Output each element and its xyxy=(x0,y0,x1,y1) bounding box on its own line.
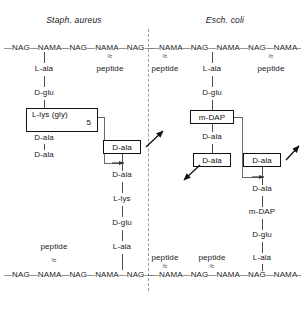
staph-top-bond-lala xyxy=(44,52,45,63)
staph-top-label-lala: L-ala xyxy=(35,64,53,73)
staph-bond-lala-backbone xyxy=(122,254,123,270)
ecoli-top-squiggle-1: ≈ xyxy=(163,52,168,60)
ecoli-bottom-backbone: —NAMA—NAG—NAMA—NAG—NAMA— xyxy=(151,270,301,279)
staph-bottom-backbone: —NAG—NAMA—NAG—NAMA—NAG— xyxy=(4,270,153,279)
ecoli-top-bond-lala xyxy=(212,52,213,63)
panel-title-staph: Staph. aureus xyxy=(0,15,148,25)
staph-bond-dglu-box xyxy=(44,100,45,108)
ecoli-bond-box-accdala xyxy=(262,167,263,185)
ecoli-acc-res-dala: D-ala xyxy=(252,184,272,193)
ecoli-top-label-peptide-1: peptide xyxy=(152,64,179,73)
staph-acceptor-box-dala: D-ala xyxy=(103,140,141,154)
ecoli-released-pointer-arrow xyxy=(184,165,200,180)
staph-bond-dala-llys xyxy=(122,182,123,193)
ecoli-top-backbone: —NAMA—NAG—NAMA—NAG—NAMA— xyxy=(151,43,301,52)
ecoli-bond-mdap-dglu xyxy=(262,219,263,230)
staph-bottom-squiggle: ≈ xyxy=(52,256,57,264)
ecoli-bottom-label-lala: L-ala xyxy=(253,253,271,262)
staph-bridge-seg-h2 xyxy=(104,163,122,164)
staph-res-dala-2: D-ala xyxy=(34,150,54,159)
ecoli-top-label-lala: L-ala xyxy=(203,64,221,73)
staph-bridge-box-subscript: 5 xyxy=(32,119,93,127)
staph-bridge-box-label: L-lys (gly) xyxy=(32,110,68,119)
staph-bond-dglu-lala xyxy=(122,230,123,241)
ecoli-bridge-seg-h2 xyxy=(242,177,262,178)
ecoli-bottom-squiggle-1: ≈ xyxy=(163,262,168,270)
ecoli-acc-res-dglu: D-glu xyxy=(252,230,272,239)
staph-res-dala-1: D-ala xyxy=(34,133,54,142)
ecoli-bond-dala-mdap xyxy=(262,196,263,207)
panel-divider xyxy=(148,29,149,291)
ecoli-top-label-peptide-2: peptide xyxy=(258,64,285,73)
ecoli-bridge-box-mdap: m-DAP xyxy=(190,110,234,124)
ecoli-res-dglu: D-glu xyxy=(202,88,222,97)
ecoli-bottom-squiggle-2: ≈ xyxy=(210,262,215,270)
peptidoglycan-diagram: Staph. aureus Esch. coli —NAG—NAMA—NAG—N… xyxy=(0,0,301,314)
ecoli-res-dala: D-ala xyxy=(202,132,222,141)
ecoli-bond-lala-dglu xyxy=(212,76,213,87)
staph-top-backbone: —NAG—NAMA—NAG—NAMA—NAG— xyxy=(4,43,153,52)
staph-acc-res-dglu: D-glu xyxy=(112,218,132,227)
staph-res-dglu: D-glu xyxy=(34,88,54,97)
staph-acc-res-lala: L-ala xyxy=(113,242,131,251)
ecoli-bond-dglu-box xyxy=(212,100,213,110)
staph-bond-lala-dglu xyxy=(44,76,45,87)
ecoli-acceptor-box-dala: D-ala xyxy=(243,153,281,167)
staph-bond-llys-dglu xyxy=(122,206,123,217)
panel-title-ecoli: Esch. coli xyxy=(150,15,300,25)
ecoli-released-box-dala: D-ala xyxy=(193,153,231,167)
staph-bond-box-dala xyxy=(122,154,123,171)
staph-top-label-peptide: peptide xyxy=(97,64,124,73)
ecoli-bridge-seg-v1 xyxy=(242,117,243,177)
ecoli-bond-box-dala xyxy=(212,124,213,132)
staph-acc-res-llys: L-lys xyxy=(113,194,130,203)
staph-top-squiggle: ≈ xyxy=(108,52,113,60)
ecoli-bond-dala-releasedbox xyxy=(212,144,213,153)
ecoli-acc-res-mdap: m-DAP xyxy=(249,207,275,216)
ecoli-top-squiggle-2: ≈ xyxy=(269,52,274,60)
ecoli-pointer-arrow xyxy=(286,146,299,160)
staph-acc-res-dala: D-ala xyxy=(112,170,132,179)
staph-bottom-label-peptide: peptide xyxy=(41,242,68,251)
ecoli-bond-dglu-lala xyxy=(262,242,263,253)
staph-bridge-box-llys-gly5: L-lys (gly) 5 xyxy=(26,108,98,132)
